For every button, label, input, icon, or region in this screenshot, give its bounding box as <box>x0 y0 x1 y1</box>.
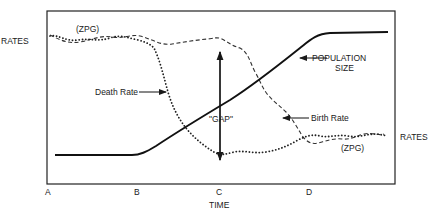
zpg-top-label: (ZPG) <box>76 24 99 34</box>
rates-left-label: RATES <box>1 36 29 46</box>
plot-frame <box>47 11 395 184</box>
population-label-line2: SIZE <box>335 63 354 73</box>
rates-right-label: RATES <box>400 132 428 142</box>
x-tick-c: C <box>216 187 222 197</box>
demographic-transition-diagram: RATES RATES (ZPG) (ZPG) "GAP" Death Rate… <box>0 0 443 216</box>
x-tick-b: B <box>134 187 140 197</box>
population-label-line1: POPULATION <box>312 53 366 63</box>
death-rate-label: Death Rate <box>95 87 138 97</box>
x-tick-a: A <box>45 187 51 197</box>
x-tick-d: D <box>306 187 312 197</box>
x-axis-title: TIME <box>209 200 230 210</box>
gap-label: "GAP" <box>209 114 233 124</box>
birth-rate-label: Birth Rate <box>311 113 349 123</box>
zpg-bottom-label: (ZPG) <box>341 143 364 153</box>
